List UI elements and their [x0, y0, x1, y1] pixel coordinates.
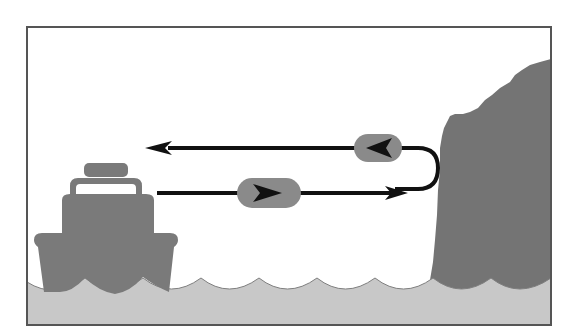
echo-diagram	[0, 0, 574, 335]
